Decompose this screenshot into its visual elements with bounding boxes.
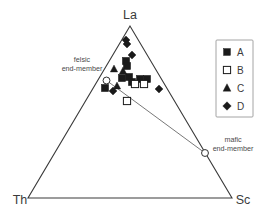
- legend-label-a: A: [237, 47, 244, 58]
- data-point-filled-square-icon: [123, 62, 130, 69]
- apex-label-sc: Sc: [236, 193, 251, 207]
- legend-label-d: D: [237, 101, 244, 112]
- data-point-open-circle-icon: [103, 77, 110, 84]
- data-point-open-square-icon: [140, 80, 147, 87]
- open-square-icon: [223, 66, 230, 73]
- mafic-annotation-line1: mafic: [224, 135, 242, 144]
- legend-label-c: C: [237, 83, 244, 94]
- felsic-annotation-line1: felsic: [74, 55, 91, 64]
- data-point-filled-square-icon: [101, 84, 108, 91]
- apex-label-th: Th: [13, 193, 28, 207]
- data-point-open-square-icon: [131, 80, 138, 87]
- ternary-plot-svg: La Th Sc felsic end-member mafic end-mem…: [0, 0, 274, 220]
- data-point-open-square-icon: [123, 97, 130, 104]
- legend: ABCD: [216, 40, 253, 117]
- data-point-open-circle-icon: [202, 150, 209, 157]
- filled-square-icon: [224, 49, 231, 56]
- apex-label-la: La: [123, 8, 137, 22]
- mafic-annotation-line2: end-member: [213, 144, 254, 153]
- legend-label-b: B: [237, 65, 244, 76]
- legend-box: [216, 40, 253, 117]
- felsic-annotation-line2: end-member: [62, 64, 103, 73]
- data-point-filled-square-icon: [118, 74, 125, 81]
- ternary-diagram-figure: La Th Sc felsic end-member mafic end-mem…: [0, 0, 274, 220]
